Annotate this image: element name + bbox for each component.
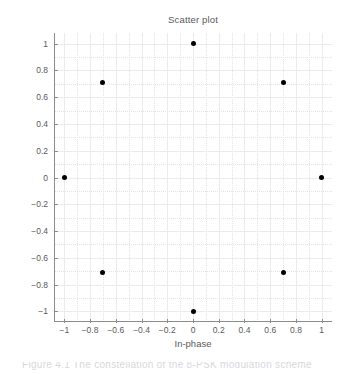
- scatter-point: [100, 270, 105, 275]
- x-tick-label: −0.8: [82, 325, 99, 335]
- grid-line-horizontal: [54, 70, 332, 71]
- scatter-plot-figure: Scatter plot −1−0.8−0.6−0.4−0.200.20.40.…: [0, 0, 353, 374]
- x-axis-label: In-phase: [54, 338, 332, 349]
- y-axis-label: Quadrature: [4, 0, 18, 62]
- y-tick-label: −0.8: [31, 280, 48, 290]
- x-tick-label: 1: [319, 325, 324, 335]
- grid-line-horizontal: [54, 258, 332, 259]
- x-tick-label: 0.6: [264, 325, 276, 335]
- y-tick-label: 0.6: [36, 92, 48, 102]
- scatter-point: [100, 80, 105, 85]
- x-tick-label: −1: [59, 325, 69, 335]
- y-tick-label: −0.2: [31, 199, 48, 209]
- figure-caption-strip: Figure 4.1 The constellation of the 8-PS…: [0, 362, 353, 374]
- x-tick-label: −0.2: [159, 325, 176, 335]
- figure-caption: Figure 4.1 The constellation of the 8-PS…: [22, 362, 312, 370]
- scatter-point: [191, 41, 196, 46]
- chart-title: Scatter plot: [54, 14, 332, 25]
- grid-line-horizontal: [54, 151, 332, 152]
- y-tick-label: −0.4: [31, 226, 48, 236]
- y-axis-line: [54, 33, 55, 322]
- x-tick-label: 0.2: [213, 325, 225, 335]
- x-tick-label: 0.8: [290, 325, 302, 335]
- y-tick-label: 1: [43, 39, 48, 49]
- x-axis-line: [54, 321, 332, 322]
- x-tick-label: −0.4: [133, 325, 150, 335]
- y-tick-label: 0.4: [36, 119, 48, 129]
- scatter-point: [191, 309, 196, 314]
- x-tick-label: 0.4: [239, 325, 251, 335]
- grid-line-horizontal: [54, 124, 332, 125]
- scatter-point: [62, 175, 67, 180]
- y-tick-label: −0.6: [31, 253, 48, 263]
- grid-line-horizontal: [54, 204, 332, 205]
- x-tick-label: −0.6: [107, 325, 124, 335]
- grid-line-horizontal: [54, 178, 332, 179]
- y-tick-label: 0.2: [36, 146, 48, 156]
- scatter-point: [319, 175, 324, 180]
- grid-line-horizontal: [54, 285, 332, 286]
- grid-line-horizontal: [54, 231, 332, 232]
- y-tick-label: −1: [38, 306, 48, 316]
- grid-line-horizontal: [54, 97, 332, 98]
- y-tick-label: 0.8: [36, 65, 48, 75]
- y-tick-label: 0: [43, 173, 48, 183]
- x-tick-label: 0: [191, 325, 196, 335]
- plot-area: −1−0.8−0.6−0.4−0.200.20.40.60.8110.80.60…: [54, 33, 332, 322]
